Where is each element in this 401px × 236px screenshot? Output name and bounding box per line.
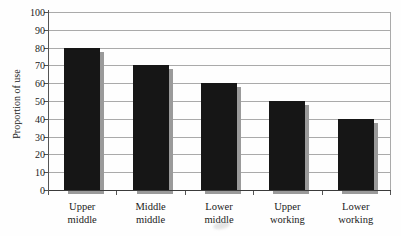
bar-2 xyxy=(133,65,169,190)
y-tick-label-90: 90 xyxy=(14,25,45,36)
y-tick-label-60: 60 xyxy=(14,78,45,89)
y-tick-label-20: 20 xyxy=(14,149,45,160)
y-tick-label-40: 40 xyxy=(14,114,45,125)
category-label-2: Middle middle xyxy=(116,200,184,226)
x-tick-1 xyxy=(116,191,117,195)
x-tick-2 xyxy=(185,191,186,195)
category-label-4: Upper working xyxy=(253,200,321,226)
y-tick-label-0: 0 xyxy=(14,185,45,196)
gridline-100 xyxy=(48,12,390,13)
gridline-90 xyxy=(48,30,390,31)
x-tick-3 xyxy=(253,191,254,195)
plot-right-border xyxy=(390,12,391,190)
x-axis-line xyxy=(46,190,391,191)
y-tick-label-10: 10 xyxy=(14,167,45,178)
bar-1 xyxy=(64,48,100,190)
y-tick-label-50: 50 xyxy=(14,96,45,107)
y-tick-label-80: 80 xyxy=(14,43,45,54)
bar-chart: Proportion of use 0102030405060708090100… xyxy=(0,0,401,236)
y-axis-line xyxy=(48,10,49,190)
y-tick-label-70: 70 xyxy=(14,60,45,71)
category-label-5: Lower working xyxy=(322,200,390,226)
x-tick-0 xyxy=(48,191,49,195)
x-tick-4 xyxy=(322,191,323,195)
bar-3 xyxy=(201,83,237,190)
bar-5 xyxy=(338,119,374,190)
y-tick-label-30: 30 xyxy=(14,132,45,143)
y-tick-label-100: 100 xyxy=(14,7,45,18)
x-tick-5 xyxy=(390,191,391,195)
category-label-1: Upper middle xyxy=(48,200,116,226)
bar-4 xyxy=(269,101,305,190)
